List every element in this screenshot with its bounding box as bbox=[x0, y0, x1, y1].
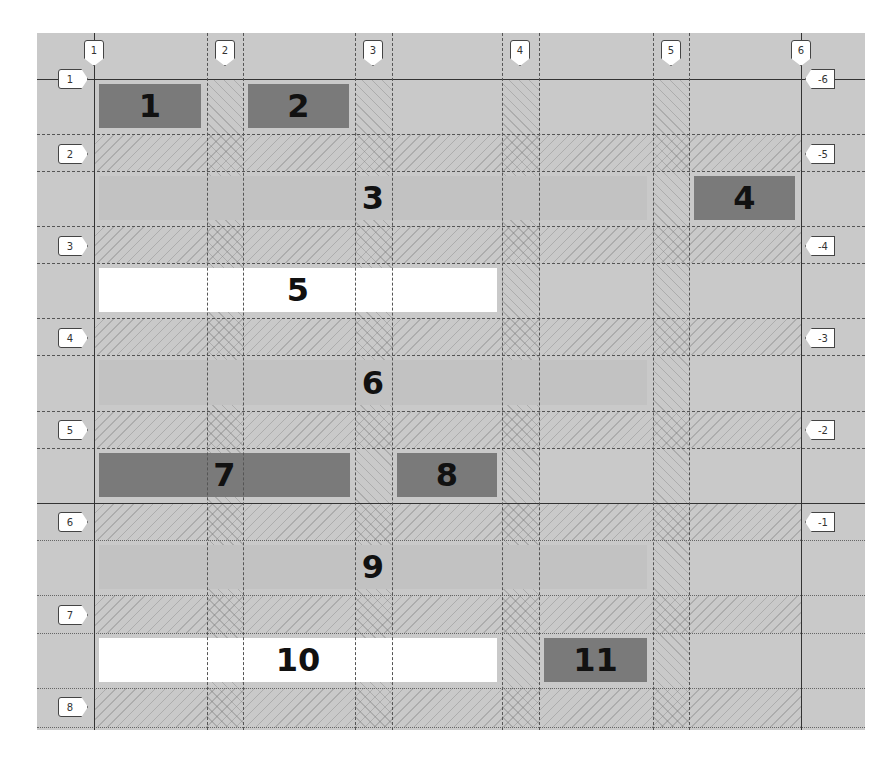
column-line-1 bbox=[94, 33, 95, 730]
grid-item-label: 10 bbox=[276, 641, 321, 679]
badge-label: 8 bbox=[67, 702, 73, 713]
row-gap-5 bbox=[94, 503, 801, 540]
badge-label: 3 bbox=[370, 45, 376, 56]
row-line-4-start bbox=[37, 318, 865, 319]
grid-item-label: 1 bbox=[139, 87, 161, 125]
badge-label: -5 bbox=[818, 149, 828, 160]
grid-item-1[interactable]: 1 bbox=[99, 84, 201, 128]
grid-item-8[interactable]: 8 bbox=[397, 453, 497, 497]
grid-item-label: 8 bbox=[436, 456, 458, 494]
badge-label: -6 bbox=[818, 74, 828, 85]
grid-item-label: 3 bbox=[362, 179, 384, 217]
badge-label: 6 bbox=[798, 45, 804, 56]
row-gap-4 bbox=[94, 411, 801, 448]
badge-label: -1 bbox=[818, 517, 828, 528]
column-gap-4 bbox=[653, 79, 689, 727]
badge-label: -4 bbox=[818, 241, 828, 252]
column-line-5-start bbox=[653, 33, 654, 730]
badge-label: -3 bbox=[818, 333, 828, 344]
row-line-2-end bbox=[37, 171, 865, 172]
row-gap-3 bbox=[94, 318, 801, 355]
badge-label: 4 bbox=[67, 333, 73, 344]
row-line-7-end bbox=[37, 633, 865, 634]
row-line-5-end bbox=[37, 448, 865, 449]
row-line-6-start bbox=[37, 503, 865, 504]
badge-label: 1 bbox=[67, 74, 73, 85]
grid-item-label: 6 bbox=[362, 364, 384, 402]
grid-item-label: 2 bbox=[287, 87, 309, 125]
row-gap-1 bbox=[94, 134, 801, 171]
badge-label: 2 bbox=[222, 45, 228, 56]
badge-label: 4 bbox=[517, 45, 523, 56]
row-line-8-start bbox=[37, 688, 865, 689]
grid-item-label: 5 bbox=[287, 271, 309, 309]
row-line-7-start bbox=[37, 595, 865, 596]
badge-label: 7 bbox=[67, 610, 73, 621]
column-line-4-end bbox=[539, 33, 540, 730]
row-line-3-start bbox=[37, 226, 865, 227]
grid-item-11[interactable]: 11 bbox=[544, 638, 647, 682]
column-line-3-end bbox=[392, 33, 393, 730]
column-line-4-start bbox=[502, 33, 503, 730]
row-line-6-end bbox=[37, 540, 865, 541]
grid-item-10[interactable]: 10 bbox=[99, 638, 497, 682]
grid-item-4[interactable]: 4 bbox=[694, 176, 795, 220]
grid-item-label: 4 bbox=[733, 179, 755, 217]
row-gap-6 bbox=[94, 595, 801, 633]
row-line-4-end bbox=[37, 355, 865, 356]
column-line-2-end bbox=[243, 33, 244, 730]
column-line-6 bbox=[801, 33, 802, 730]
row-gap-2 bbox=[94, 226, 801, 263]
column-line-3-start bbox=[355, 33, 356, 730]
badge-label: 5 bbox=[668, 45, 674, 56]
grid-item-label: 11 bbox=[573, 641, 618, 679]
grid-item-2[interactable]: 2 bbox=[248, 84, 349, 128]
badge-label: 3 bbox=[67, 241, 73, 252]
badge-label: 5 bbox=[67, 425, 73, 436]
badge-label: 2 bbox=[67, 149, 73, 160]
badge-label: 6 bbox=[67, 517, 73, 528]
badge-label: 1 bbox=[91, 45, 97, 56]
grid-item-label: 9 bbox=[362, 548, 384, 586]
row-line-3-end bbox=[37, 263, 865, 264]
grid-item-7[interactable]: 7 bbox=[99, 453, 350, 497]
grid-item-label: 7 bbox=[213, 456, 235, 494]
badge-label: -2 bbox=[818, 425, 828, 436]
row-line-5-start bbox=[37, 411, 865, 412]
row-gap-7 bbox=[94, 688, 801, 727]
column-line-5-end bbox=[689, 33, 690, 730]
grid-item-5[interactable]: 5 bbox=[99, 268, 497, 312]
grid-item-9[interactable]: 9 bbox=[99, 545, 647, 589]
grid-item-3[interactable]: 3 bbox=[99, 176, 647, 220]
column-line-2-start bbox=[207, 33, 208, 730]
row-line-1 bbox=[37, 79, 865, 80]
row-line-8-end bbox=[37, 727, 865, 728]
grid-item-6[interactable]: 6 bbox=[99, 360, 647, 405]
row-line-2-start bbox=[37, 134, 865, 135]
